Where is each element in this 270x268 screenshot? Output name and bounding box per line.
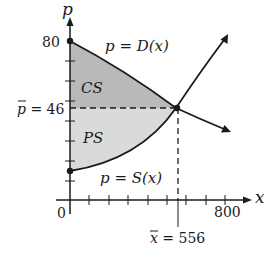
x-max-label: 800 — [214, 204, 241, 220]
x-bar-value: = 556 — [158, 230, 205, 246]
origin-label: 0 — [57, 205, 66, 221]
supply-label: p = S(x) — [100, 169, 162, 187]
x-axis-arrow-icon — [243, 197, 252, 204]
surplus-diagram: p x 0 80 800 p = 46 x = 556 p = D(x) p =… — [0, 0, 270, 268]
equilibrium-quantity-label: x = 556 — [150, 230, 205, 246]
supply-intercept-point — [67, 168, 73, 174]
demand-intercept-point — [67, 38, 73, 44]
x-axis-label: x — [255, 187, 265, 207]
demand-label: p = D(x) — [105, 37, 169, 55]
x-bar-var: x — [150, 230, 158, 246]
p-bar-value: = 46 — [26, 101, 65, 117]
producer-surplus-label: PS — [82, 129, 103, 147]
y-max-label: 80 — [42, 34, 60, 50]
equilibrium-point — [174, 105, 180, 111]
consumer-surplus-label: CS — [81, 79, 103, 97]
equilibrium-price-label: p = 46 — [17, 101, 65, 117]
p-bar-var: p — [17, 101, 26, 117]
y-axis-label: p — [62, 0, 73, 19]
